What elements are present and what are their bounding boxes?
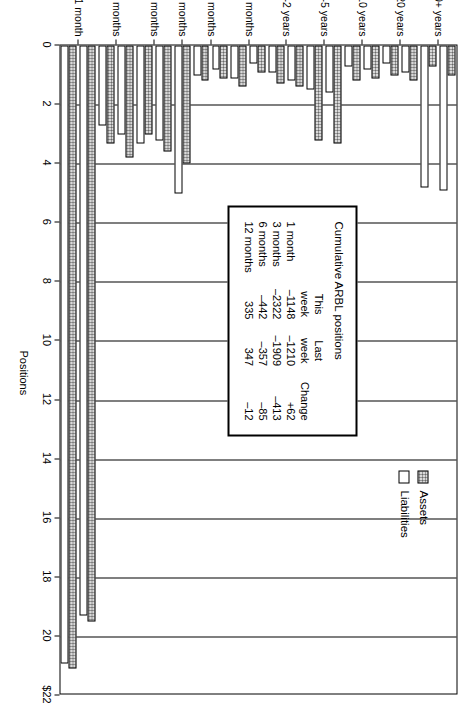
bar-liabilities <box>193 45 201 75</box>
last-week-value: 347 <box>241 319 255 366</box>
value-tick <box>54 44 59 45</box>
row-label: 6 months <box>255 221 269 272</box>
bar-liabilities <box>401 45 409 72</box>
bar-liabilities <box>268 45 276 72</box>
axis-title-positions: Positions <box>17 350 29 395</box>
bar-assets <box>87 45 95 621</box>
bar-assets <box>295 45 303 86</box>
value-tick-label: 2 <box>40 100 52 106</box>
gridline <box>60 459 456 460</box>
value-tick <box>54 576 59 577</box>
value-tick-label: 6 <box>40 218 52 224</box>
category-tick <box>181 39 182 44</box>
table-header-line: week <box>297 335 311 366</box>
category-label: 20+ years <box>432 0 444 36</box>
category-label: 10-12 months <box>243 0 255 36</box>
bar-liabilities <box>306 45 314 89</box>
inset-title: Cumulative ARBL positions <box>332 221 344 420</box>
value-tick <box>54 458 59 459</box>
category-tick <box>77 39 78 44</box>
bar-assets <box>219 45 227 78</box>
bar-assets <box>276 45 284 83</box>
bar-liabilities <box>60 45 68 663</box>
change-value: –12 <box>241 366 255 421</box>
this-week-value: –1148 <box>283 272 297 319</box>
value-tick-label: 8 <box>40 277 52 283</box>
bar-liabilities <box>439 45 447 190</box>
table-row: 12 months335347–12 <box>241 221 255 420</box>
category-label: 4-6 months <box>176 0 188 36</box>
category-label: 1-2 years <box>280 0 292 36</box>
value-tick <box>54 339 59 340</box>
bar-liabilities <box>382 45 390 63</box>
category-label: 3-5 years <box>318 0 330 36</box>
table-header-line: Change <box>297 382 311 421</box>
bar-assets <box>238 45 246 86</box>
bar-assets <box>352 45 360 80</box>
category-tick <box>153 39 154 44</box>
value-tick <box>54 635 59 636</box>
change-value: +62 <box>283 366 297 421</box>
row-label: 12 months <box>241 221 255 272</box>
table-row: 6 months–442–357–85 <box>255 221 269 420</box>
value-tick <box>54 103 59 104</box>
rotated-figure-wrapper: 02468101214161820$22 1 month2 months3 mo… <box>0 0 469 721</box>
value-tick-label: 16 <box>40 511 52 523</box>
last-week-value: –1909 <box>269 319 283 366</box>
table-column-header: Thisweek <box>297 272 325 319</box>
bar-assets <box>428 45 436 66</box>
bar-assets <box>68 45 76 668</box>
inset-table-box: Cumulative ARBL positions ThisweekLastwe… <box>227 205 357 436</box>
legend-label: Liabilities <box>398 490 410 537</box>
value-tick-label: 10 <box>40 333 52 345</box>
table-row: 3 months–2322–1909–413 <box>269 221 283 420</box>
change-value: –413 <box>269 366 283 421</box>
bar-liabilities <box>212 45 220 69</box>
bar-assets <box>390 45 398 75</box>
legend-label: Assets <box>417 490 429 525</box>
bar-assets <box>371 45 379 78</box>
change-value: –85 <box>255 366 269 421</box>
value-tick <box>54 280 59 281</box>
category-tick <box>248 39 249 44</box>
category-label: 6-10 years <box>356 0 368 36</box>
bar-liabilities <box>79 45 87 615</box>
gridline <box>60 518 456 519</box>
category-tick <box>210 39 211 44</box>
cumulative-arbl-table: ThisweekLastweekChange1 month–1148–1210+… <box>241 221 325 420</box>
category-label: 2 months <box>110 0 122 36</box>
row-label: 3 months <box>269 221 283 272</box>
bar-assets <box>163 45 171 151</box>
value-tick-label: 4 <box>40 159 52 165</box>
bar-assets <box>257 45 265 72</box>
value-tick-label: 14 <box>40 452 52 464</box>
bar-liabilities <box>249 45 257 63</box>
last-week-value: –1210 <box>283 319 297 366</box>
table-column-header: Lastweek <box>297 319 325 366</box>
bar-assets <box>106 45 114 143</box>
bar-liabilities <box>136 45 144 143</box>
value-tick-label: $22 <box>40 685 52 703</box>
bar-assets <box>144 45 152 134</box>
category-tick <box>323 39 324 44</box>
this-week-value: –2322 <box>269 272 283 319</box>
category-label: 11-20 years <box>394 0 406 36</box>
category-tick <box>115 39 116 44</box>
value-tick <box>54 221 59 222</box>
bar-liabilities <box>420 45 428 187</box>
bar-assets <box>201 45 209 80</box>
legend-item[interactable]: Assets <box>417 470 429 537</box>
category-tick <box>399 39 400 44</box>
bar-liabilities <box>117 45 125 134</box>
category-axis: 1 month2 months3 months4-6 months7-9 mon… <box>59 0 457 44</box>
this-week-value: –442 <box>255 272 269 319</box>
value-tick <box>54 399 59 400</box>
bar-assets <box>409 45 417 80</box>
table-column-header <box>297 221 325 272</box>
legend-item[interactable]: Liabilities <box>398 470 410 537</box>
table-row: 1 month–1148–1210+62 <box>283 221 297 420</box>
this-week-value: 335 <box>241 272 255 319</box>
bar-assets <box>333 45 341 143</box>
legend-swatch-liabilities-icon <box>399 470 410 483</box>
category-tick <box>437 39 438 44</box>
